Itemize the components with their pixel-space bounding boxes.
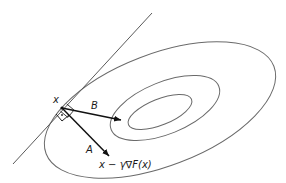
right-angle-dot <box>61 114 63 116</box>
label-vector-b: B <box>91 100 98 111</box>
label-point-x: x <box>52 94 59 105</box>
contour-outer <box>26 14 286 183</box>
diagram-canvas: x B A x − γ∇F(x) <box>0 0 286 183</box>
contour-middle <box>101 62 228 154</box>
label-vector-a: A <box>85 144 93 155</box>
tangent-line <box>13 13 152 164</box>
label-step-result: x − γ∇F(x) <box>98 159 152 170</box>
gradient-descent-diagram: x B A x − γ∇F(x) <box>0 0 286 183</box>
point-x-marker <box>60 106 63 109</box>
